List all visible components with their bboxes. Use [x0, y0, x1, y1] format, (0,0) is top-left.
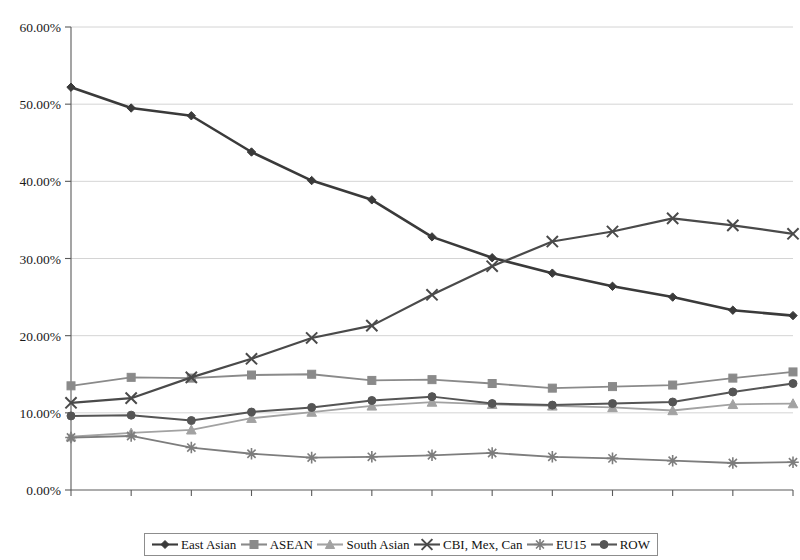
series-layer — [65, 83, 799, 469]
data-point-asterisk-marker — [125, 430, 137, 442]
legend-label: ROW — [620, 537, 650, 553]
data-point-circle-marker — [609, 400, 617, 408]
legend-marker-square-icon — [241, 538, 267, 551]
y-axis-tick-label: 60.00% — [19, 20, 61, 35]
data-point-circle-marker — [187, 417, 195, 425]
data-point-square-marker — [669, 381, 677, 389]
data-point-circle-marker — [248, 408, 256, 416]
legend-item-cbi-mex-can[interactable]: CBI, Mex, Can — [414, 537, 522, 553]
data-point-circle-marker — [308, 403, 316, 411]
data-point-diamond-marker — [488, 254, 496, 262]
data-point-square-marker — [250, 541, 258, 549]
data-point-circle-marker — [127, 411, 135, 419]
data-point-circle-marker — [669, 398, 677, 406]
data-point-circle-marker — [789, 380, 797, 388]
data-point-square-marker — [729, 374, 737, 382]
y-axis-tick-label: 0.00% — [26, 483, 61, 498]
series-east-asian — [67, 83, 797, 320]
data-point-circle-marker — [488, 400, 496, 408]
gridlines — [71, 27, 793, 490]
chart-screenshot: 0.00%10.00%20.00%30.00%40.00%50.00%60.00… — [0, 0, 800, 560]
data-point-asterisk-marker — [787, 456, 799, 468]
legend-item-asean[interactable]: ASEAN — [241, 537, 313, 553]
data-point-circle-marker — [600, 541, 608, 549]
data-point-x-marker — [426, 289, 437, 300]
legend-label: CBI, Mex, Can — [443, 537, 522, 553]
data-point-square-marker — [308, 370, 316, 378]
data-point-asterisk-marker — [547, 451, 559, 463]
data-point-square-marker — [67, 382, 75, 390]
data-point-square-marker — [248, 371, 256, 379]
y-axis-tick-label: 50.00% — [19, 97, 61, 112]
data-point-diamond-marker — [608, 282, 616, 290]
legend-marker-x-icon — [414, 538, 440, 551]
data-point-square-marker — [548, 384, 556, 392]
data-point-square-marker — [488, 380, 496, 388]
y-axis — [65, 27, 71, 490]
series-asean — [67, 368, 797, 392]
chart-canvas: 0.00%10.00%20.00%30.00%40.00%50.00%60.00… — [0, 0, 800, 500]
legend-item-eu15[interactable]: EU15 — [527, 537, 586, 553]
data-point-asterisk-marker — [186, 442, 198, 454]
data-point-asterisk-marker — [486, 447, 498, 459]
y-axis-tick-labels: 0.00%10.00%20.00%30.00%40.00%50.00%60.00… — [19, 20, 61, 498]
data-point-diamond-marker — [668, 293, 676, 301]
data-point-square-marker — [368, 376, 376, 384]
data-point-diamond-marker — [548, 269, 556, 277]
data-point-square-marker — [609, 383, 617, 391]
legend-marker-diamond-icon — [152, 538, 178, 551]
data-point-circle-marker — [428, 393, 436, 401]
legend-label: South Asian — [346, 537, 409, 553]
data-point-square-marker — [428, 376, 436, 384]
data-point-asterisk-marker — [667, 455, 679, 467]
data-point-diamond-marker — [67, 83, 75, 91]
data-point-square-marker — [789, 368, 797, 376]
y-axis-tick-label: 20.00% — [19, 329, 61, 344]
data-point-diamond-marker — [307, 176, 315, 184]
data-point-diamond-marker — [789, 311, 797, 319]
data-point-circle-marker — [368, 396, 376, 404]
data-point-asterisk-marker — [246, 448, 258, 460]
data-point-asterisk-marker — [607, 453, 619, 465]
data-point-asterisk-marker — [366, 451, 378, 463]
legend-marker-circle-icon — [591, 538, 617, 551]
legend-item-south-asian[interactable]: South Asian — [317, 537, 409, 553]
y-axis-tick-label: 40.00% — [19, 174, 61, 189]
data-point-circle-marker — [548, 401, 556, 409]
legend-label: ASEAN — [270, 537, 313, 553]
data-point-asterisk-marker — [534, 539, 545, 550]
data-point-asterisk-marker — [426, 449, 438, 461]
data-point-asterisk-marker — [727, 457, 739, 469]
line-chart: 0.00%10.00%20.00%30.00%40.00%50.00%60.00… — [0, 0, 800, 500]
data-point-x-marker — [246, 353, 257, 364]
data-point-square-marker — [127, 373, 135, 381]
data-point-asterisk-marker — [65, 432, 77, 444]
legend-label: EU15 — [556, 537, 586, 553]
legend-item-east-asian[interactable]: East Asian — [152, 537, 236, 553]
legend-item-row[interactable]: ROW — [591, 537, 650, 553]
series-eu15 — [65, 430, 799, 469]
x-axis — [71, 490, 793, 496]
legend-label: East Asian — [181, 537, 236, 553]
data-point-circle-marker — [729, 388, 737, 396]
y-axis-tick-label: 10.00% — [19, 406, 61, 421]
chart-legend: East AsianASEANSouth AsianCBI, Mex, CanE… — [144, 533, 658, 556]
series-line — [71, 87, 793, 315]
data-point-diamond-marker — [127, 104, 135, 112]
data-point-diamond-marker — [161, 541, 169, 549]
series-line — [71, 218, 793, 402]
y-axis-tick-label: 30.00% — [19, 252, 61, 267]
data-point-asterisk-marker — [306, 452, 318, 464]
legend-marker-asterisk-icon — [527, 538, 553, 551]
legend-marker-triangle-icon — [317, 538, 343, 551]
data-point-diamond-marker — [729, 306, 737, 314]
data-point-circle-marker — [67, 412, 75, 420]
